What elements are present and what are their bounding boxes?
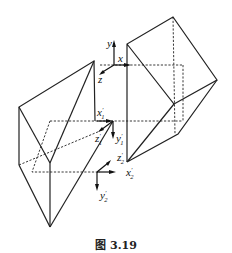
- figure-caption: 图 3.19: [0, 236, 232, 252]
- axis-frame-1: x′1 y′1 z′1: [94, 106, 124, 146]
- z2-prime-label: z′2: [116, 151, 125, 165]
- z-axis-label: z: [97, 73, 103, 85]
- x2-prime-label: x′2: [125, 166, 134, 180]
- x1-prime-label: x′1: [96, 106, 105, 120]
- z1-prime-label: z′1: [94, 132, 102, 146]
- y2-prime-label: y′2: [99, 189, 108, 203]
- axis-frame-0: y x z: [97, 37, 131, 85]
- axis-frame-2: x′2 y′2 z′2: [95, 151, 134, 203]
- prism-diagram: y x z x′1 y′1 z′1 x′2 y′2 z′2: [0, 0, 232, 253]
- right-prism: [50, 17, 217, 162]
- x-axis-label: x: [117, 52, 123, 64]
- y-axis-label: y: [106, 37, 112, 49]
- y1-prime-label: y′1: [115, 132, 124, 146]
